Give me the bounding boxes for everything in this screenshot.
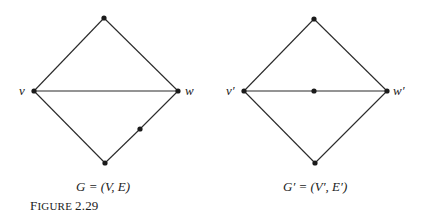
edge-top-w xyxy=(104,18,178,91)
node-top xyxy=(101,15,106,20)
figure-label: FIGURE 2.29 xyxy=(30,198,99,214)
graph-canvas xyxy=(0,0,429,219)
node-w xyxy=(384,88,389,93)
figure-number: 2.29 xyxy=(75,198,99,213)
graph-g xyxy=(34,18,178,163)
node-top xyxy=(311,16,316,21)
figure-label-rest: IGURE xyxy=(37,200,72,212)
edge-v-top xyxy=(34,18,104,91)
node-bottom xyxy=(312,160,317,165)
edge-top-w xyxy=(314,19,387,91)
node-label-v-prime: v′ xyxy=(226,84,235,97)
node-label-w-prime: w′ xyxy=(393,84,405,97)
node-label-v: v xyxy=(19,84,25,97)
node-extra xyxy=(137,126,142,131)
node-v xyxy=(241,88,246,93)
node-mid xyxy=(311,88,316,93)
edge-v-bottom xyxy=(244,91,315,163)
edge-bottom-w xyxy=(315,91,387,163)
caption-graph-g-prime: G′ = (V′, E′) xyxy=(283,180,347,193)
edge-extra-w xyxy=(140,91,178,129)
node-w xyxy=(175,88,180,93)
edge-bottom-extra xyxy=(105,129,140,163)
node-v xyxy=(31,88,36,93)
edge-v-top xyxy=(244,19,314,91)
caption-graph-g: G = (V, E) xyxy=(76,180,130,193)
node-bottom xyxy=(102,160,107,165)
edge-v-bottom xyxy=(34,91,105,163)
node-label-w: w xyxy=(185,84,194,97)
